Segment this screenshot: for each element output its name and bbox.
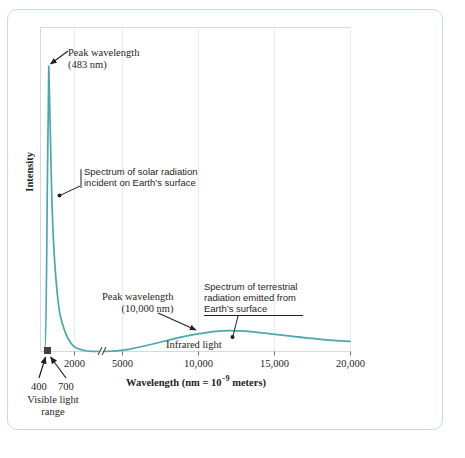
- visible-light-marker: [44, 347, 51, 354]
- annotation-terrestrial-spectrum-line2: radiation emitted from: [204, 292, 296, 303]
- plot-area: [41, 28, 351, 352]
- visible-light-caption-line2: range: [41, 406, 64, 417]
- xtick-label-15000: 15,000: [260, 358, 289, 369]
- xtick-label-5000: 5000: [112, 358, 133, 369]
- annotation-peak-solar: Peak wavelength(483 nm): [68, 47, 139, 71]
- annotation-peak-terrestrial: Peak wavelength(10,000 nm): [102, 291, 173, 315]
- annotation-terrestrial-spectrum-line3: Earth’s surface: [204, 303, 267, 314]
- y-axis-title: Intensity: [24, 152, 38, 192]
- x-axis-title: Wavelength (nm = 10−9 meters): [126, 374, 266, 388]
- visible-light-caption-line1: Visible light: [27, 394, 79, 405]
- annotation-solar-spectrum-line1: Spectrum of solar radiation: [84, 166, 198, 177]
- visible-light-arrows: [39, 357, 66, 378]
- annotation-peak-solar-line2: (483 nm): [68, 59, 107, 70]
- annotation-peak-solar-line1: Peak wavelength: [68, 47, 139, 58]
- visible-light-low-label: 400: [31, 381, 47, 392]
- annotation-solar-spectrum-line2: incident on Earth’s surface: [84, 177, 196, 188]
- visible-light-caption: Visible lightrange: [27, 394, 79, 418]
- x-axis-ticks: [75, 352, 351, 356]
- visible-light-high-label: 700: [58, 381, 74, 392]
- annotation-peak-terrestrial-line1: Peak wavelength: [102, 291, 173, 302]
- annotation-solar-spectrum: Spectrum of solar radiationincident on E…: [84, 166, 198, 188]
- xtick-label-10000: 10,000: [184, 358, 213, 369]
- annotation-terrestrial-spectrum: Spectrum of terrestrialradiation emitted…: [204, 281, 297, 315]
- annotation-infrared-light: Infrared light: [166, 339, 222, 351]
- xtick-label-20000: 20,000: [336, 358, 365, 369]
- annotation-terrestrial-spectrum-line1: Spectrum of terrestrial: [204, 281, 297, 292]
- xtick-label-2000: 2000: [64, 358, 85, 369]
- annotation-peak-terrestrial-line2: (10,000 nm): [122, 303, 174, 314]
